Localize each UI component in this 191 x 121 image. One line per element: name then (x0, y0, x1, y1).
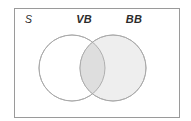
set-label-vb: VB (76, 13, 92, 25)
universal-set-label: S (25, 13, 32, 25)
venn-diagram-figure: S VB BB (0, 0, 191, 121)
venn-diagram-canvas: S VB BB (0, 0, 191, 121)
set-label-bb: BB (126, 13, 142, 25)
